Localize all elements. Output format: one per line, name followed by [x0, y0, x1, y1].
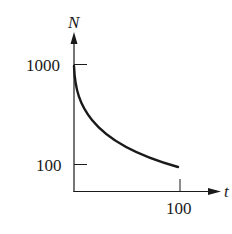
- y-axis-label: N: [67, 13, 81, 32]
- x-axis-label: t: [224, 182, 230, 201]
- x-axis-arrow-icon: [208, 188, 221, 195]
- y-tick-label-1000: 1000: [26, 56, 60, 75]
- data-curve: [74, 66, 178, 167]
- y-tick-label-100: 100: [36, 156, 62, 175]
- y-axis-arrow-icon: [71, 32, 78, 44]
- x-tick-label-100: 100: [166, 199, 192, 218]
- chart: N t 1000 100 100: [0, 0, 232, 234]
